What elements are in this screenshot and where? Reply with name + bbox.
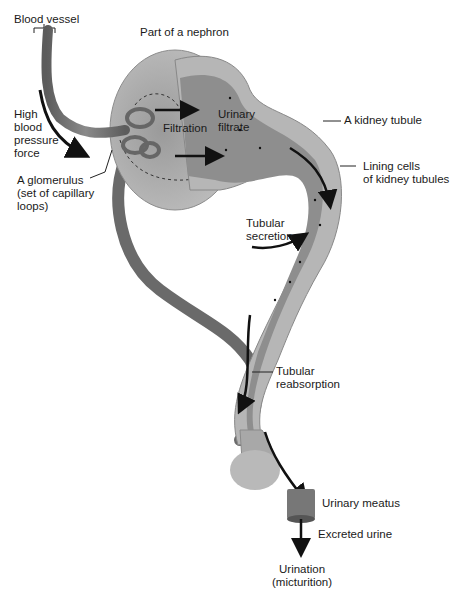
label-high-blood-pressure: High blood pressure force (14, 108, 59, 160)
label-tubular-secretion: Tubular secretion (246, 217, 293, 243)
label-glomerulus: A glomerulus (set of capillary loops) (17, 174, 94, 213)
label-urinary-meatus: Urinary meatus (322, 497, 400, 510)
label-urination: Urination (micturition) (272, 563, 332, 589)
label-blood-vessel: Blood vessel (14, 13, 79, 26)
label-urinary-filtrate: Urinary filtrate (218, 108, 255, 134)
label-kidney-tubule: A kidney tubule (344, 114, 422, 127)
label-tubular-reabsorption: Tubular reabsorption (276, 365, 340, 391)
urinary-meatus (287, 489, 315, 523)
label-excreted-urine: Excreted urine (318, 528, 392, 541)
label-part-of-nephron: Part of a nephron (140, 26, 229, 39)
label-filtration: Filtration (163, 122, 207, 135)
label-lining-cells: Lining cells of kidney tubules (363, 160, 449, 186)
